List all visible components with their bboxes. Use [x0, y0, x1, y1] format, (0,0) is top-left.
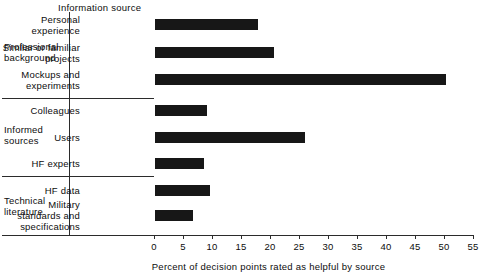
bar-row: Users — [72, 129, 483, 157]
x-axis-title: Percent of decision points rated as help… — [0, 261, 483, 272]
bar — [155, 74, 446, 85]
x-axis-tick — [183, 235, 184, 239]
x-axis-tick — [241, 235, 242, 239]
bar-label: Military standards and specifications — [0, 199, 80, 232]
bar — [155, 158, 204, 169]
x-axis-tick-label: 5 — [168, 241, 198, 252]
bar-row: Similar or familiar projects — [72, 42, 483, 70]
x-axis-tick-label: 30 — [313, 241, 343, 252]
group-separator-1 — [2, 98, 154, 99]
x-axis-line — [154, 235, 473, 236]
bar-chart: Information source Professional backgrou… — [0, 0, 483, 280]
x-axis-tick — [473, 235, 474, 239]
x-axis-tick-label: 40 — [371, 241, 401, 252]
bar-label: Colleagues — [0, 105, 80, 116]
bar — [155, 185, 210, 196]
x-axis-tick-label: 10 — [197, 241, 227, 252]
x-axis-tick — [270, 235, 271, 239]
bar — [155, 132, 305, 143]
bar-row: Personal experience — [72, 14, 483, 42]
bar — [155, 19, 258, 30]
x-axis-tick-label: 45 — [400, 241, 430, 252]
x-axis-tick — [154, 235, 155, 239]
bar — [155, 210, 193, 221]
x-axis-tick — [212, 235, 213, 239]
x-axis-tick — [415, 235, 416, 239]
bar-label: Similar or familiar projects — [0, 42, 80, 64]
bar — [155, 47, 274, 58]
bar — [155, 105, 207, 116]
bar-label: Users — [0, 132, 80, 143]
bar-row: Mockups and experiments — [72, 69, 483, 97]
x-axis-tick-label: 20 — [255, 241, 285, 252]
x-axis-tick — [328, 235, 329, 239]
bar-row: HF experts — [72, 155, 483, 183]
x-axis-tick-label: 25 — [284, 241, 314, 252]
x-axis-tick — [299, 235, 300, 239]
x-axis-tick-label: 35 — [342, 241, 372, 252]
x-axis-tick-label: 15 — [226, 241, 256, 252]
x-axis-tick-label: 55 — [458, 241, 483, 252]
bar-label: HF experts — [0, 158, 80, 169]
x-axis-tick-label: 50 — [429, 241, 459, 252]
bar-label: HF data — [0, 185, 80, 196]
bar-label: Mockups and experiments — [0, 69, 80, 91]
group-separator-bottom — [2, 235, 154, 236]
x-axis-tick — [386, 235, 387, 239]
bar-row: Colleagues — [72, 102, 483, 130]
bar-row: Military standards and specifications — [72, 199, 483, 227]
x-axis-tick-label: 0 — [139, 241, 169, 252]
x-axis-tick — [444, 235, 445, 239]
x-axis-tick — [357, 235, 358, 239]
bar-label: Personal experience — [0, 14, 80, 36]
information-source-header: Information source — [58, 2, 141, 13]
